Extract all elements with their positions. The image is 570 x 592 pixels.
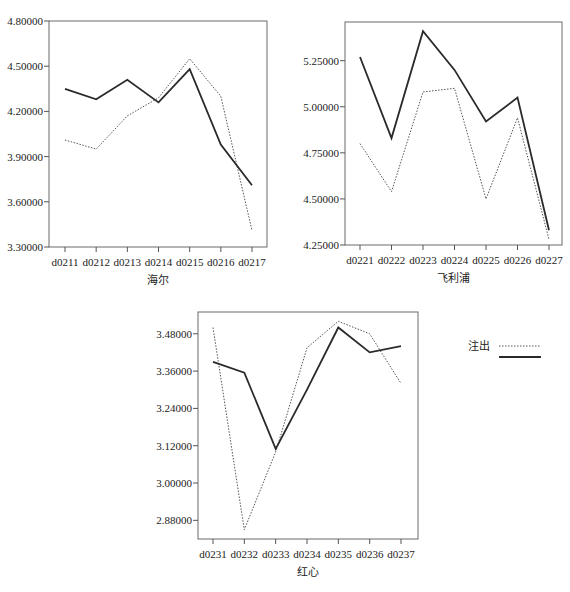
series-line-dotted xyxy=(65,59,252,231)
x-axis: d0221d0222d0223d0224d0225d0226d0227 xyxy=(346,245,563,266)
y-tick-label: 5.25000 xyxy=(303,55,339,67)
y-tick-label: 5.00000 xyxy=(303,101,339,113)
y-tick-label: 3.30000 xyxy=(7,241,43,253)
chart-hongxin: 2.880003.000003.120003.240003.360003.480… xyxy=(156,312,418,579)
x-tick-label: d0222 xyxy=(378,254,406,266)
x-tick-label: d0211 xyxy=(51,256,78,268)
x-tick-label: d0216 xyxy=(207,256,235,268)
x-tick-label: d0214 xyxy=(145,256,173,268)
x-tick-label: d0225 xyxy=(472,254,500,266)
y-tick-label: 3.90000 xyxy=(7,151,43,163)
x-tick-label: d0217 xyxy=(238,256,266,268)
y-tick-label: 4.75000 xyxy=(303,147,339,159)
chart-philips: 4.250004.500004.750005.000005.25000 d022… xyxy=(303,22,563,285)
x-tick-label: d0221 xyxy=(346,254,374,266)
y-tick-label: 4.50000 xyxy=(7,60,43,72)
x-tick-label: d0227 xyxy=(535,254,563,266)
x-tick-label: d0233 xyxy=(262,548,290,560)
series-line-solid xyxy=(65,69,252,185)
legend-label: 注出 xyxy=(468,339,490,353)
x-axis: d0231d0232d0233d0234d0235d0236d0237 xyxy=(199,539,415,560)
plot-frame xyxy=(198,312,418,539)
x-tick-label: d0237 xyxy=(387,548,415,560)
y-tick-label: 2.88000 xyxy=(156,514,192,526)
x-tick-label: d0231 xyxy=(199,548,227,560)
y-tick-label: 4.20000 xyxy=(7,105,43,117)
y-tick-label: 4.80000 xyxy=(7,15,43,27)
y-tick-label: 3.36000 xyxy=(156,365,192,377)
y-tick-label: 3.00000 xyxy=(156,477,192,489)
x-tick-label: d0236 xyxy=(356,548,384,560)
y-axis: 4.250004.500004.750005.000005.25000 xyxy=(303,55,345,251)
plot-frame xyxy=(345,22,562,245)
y-axis: 2.880003.000003.120003.240003.360003.480… xyxy=(156,328,198,527)
x-axis-title: 飞利浦 xyxy=(437,272,470,285)
y-tick-label: 3.48000 xyxy=(156,328,192,340)
y-tick-label: 3.24000 xyxy=(156,402,192,414)
y-tick-label: 4.50000 xyxy=(303,193,339,205)
chart-figure: 3.300003.600003.900004.200004.500004.800… xyxy=(0,0,570,592)
x-axis: d0211d0212d0213d0214d0215d0216d0217 xyxy=(51,247,266,268)
y-axis: 3.300003.600003.900004.200004.500004.800… xyxy=(7,15,49,253)
legend: 注出 xyxy=(468,339,541,357)
y-tick-label: 3.12000 xyxy=(156,440,192,452)
x-axis-title: 红心 xyxy=(297,566,319,579)
y-tick-label: 3.60000 xyxy=(7,196,43,208)
x-tick-label: d0213 xyxy=(114,256,142,268)
plot-frame xyxy=(49,21,267,247)
x-tick-label: d0235 xyxy=(325,548,353,560)
y-tick-label: 4.25000 xyxy=(303,239,339,251)
x-axis-title: 海尔 xyxy=(147,273,169,287)
x-tick-label: d0226 xyxy=(504,254,532,266)
x-tick-label: d0212 xyxy=(82,256,110,268)
x-tick-label: d0215 xyxy=(176,256,204,268)
chart-haier: 3.300003.600003.900004.200004.500004.800… xyxy=(7,15,267,287)
x-tick-label: d0224 xyxy=(441,254,469,266)
x-tick-label: d0223 xyxy=(409,254,437,266)
x-tick-label: d0232 xyxy=(231,548,259,560)
series-line-solid xyxy=(213,328,401,449)
x-tick-label: d0234 xyxy=(293,548,321,560)
